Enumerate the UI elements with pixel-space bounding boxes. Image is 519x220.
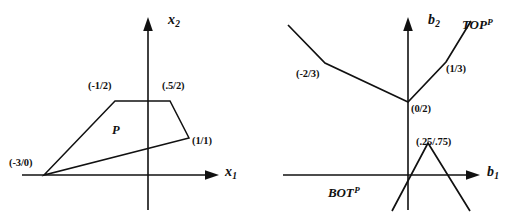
x2-axis-arrowhead [143, 17, 153, 31]
bot-p-label: BOTP [328, 186, 360, 199]
region-label-p: P [112, 124, 120, 137]
primal-space-plot [22, 17, 219, 210]
vertex-label-left: (-3/0) [9, 158, 32, 169]
vertex-label-right: (1/1) [192, 136, 212, 147]
top-p-curve [288, 21, 471, 102]
breakpoint-label-025-075: (.25/.75) [416, 137, 451, 148]
x1-axis-arrowhead [205, 170, 219, 180]
figure-root: x2 x1 (-1/2) (.5/2) (1/1) (-3/0) P b2 b1… [0, 0, 519, 220]
polytope-p-outline [44, 101, 189, 175]
x2-axis-label: x2 [168, 13, 180, 29]
figure-canvas [0, 0, 519, 220]
b1-axis-arrowhead [466, 170, 480, 180]
dual-space-plot [283, 17, 480, 211]
vertex-label-top-left: (-1/2) [88, 81, 111, 92]
vertex-label-top-right: (.5/2) [162, 81, 184, 92]
breakpoint-label-minus2-3: (-2/3) [296, 69, 319, 80]
bot-p-curve [392, 143, 470, 211]
top-p-label: TOPP [462, 18, 493, 31]
breakpoint-label-1-3: (1/3) [446, 64, 466, 75]
breakpoint-label-0-2: (0/2) [411, 104, 431, 115]
b2-axis-label: b2 [428, 13, 440, 29]
x1-axis-label: x1 [225, 165, 237, 181]
b2-axis-arrowhead [403, 17, 413, 31]
b1-axis-label: b1 [487, 165, 499, 181]
